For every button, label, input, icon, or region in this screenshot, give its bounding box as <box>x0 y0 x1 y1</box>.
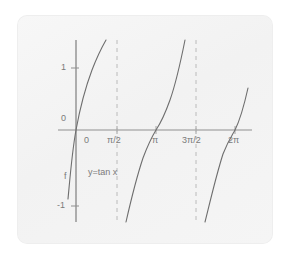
figure-root: 1 0 -1 f 0 π/2 π 3π/2 2π y=tan x <box>0 0 291 258</box>
tan-branch-3 <box>205 88 248 222</box>
x-tick-label-0: 0 <box>84 136 89 145</box>
x-tick-label-pi-over-2: π/2 <box>107 136 121 145</box>
y-origin-label: 0 <box>61 114 66 123</box>
plot-svg <box>0 0 291 258</box>
function-marker-label: f <box>64 172 67 181</box>
tan-branch-2 <box>126 40 185 222</box>
y-tick-label-1: 1 <box>61 63 66 72</box>
y-tick-label-minus-1: -1 <box>57 201 65 210</box>
tangent-plot: 1 0 -1 f 0 π/2 π 3π/2 2π y=tan x <box>0 0 291 258</box>
equation-annotation: y=tan x <box>88 168 117 177</box>
x-tick-label-pi: π <box>152 136 158 145</box>
x-tick-label-2pi: 2π <box>228 136 239 145</box>
x-tick-label-3pi-over-2: 3π/2 <box>182 136 201 145</box>
